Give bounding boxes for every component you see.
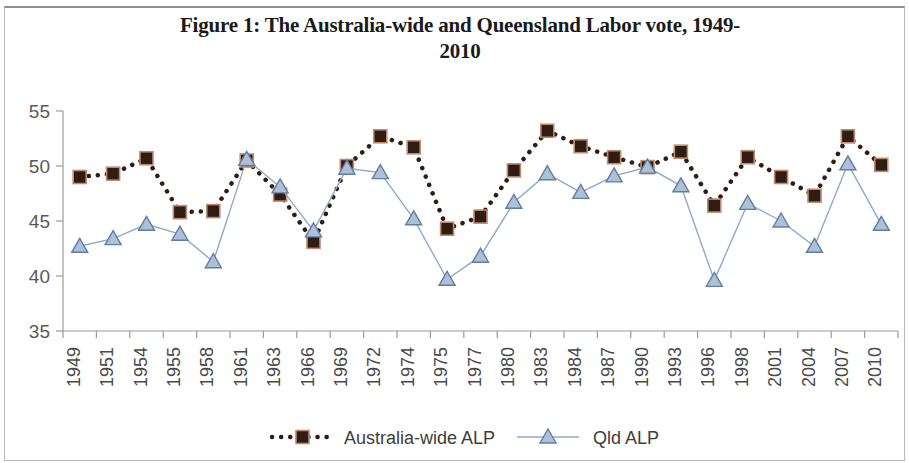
data-point-marker xyxy=(207,205,220,218)
x-axis-tick-label: 1990 xyxy=(632,347,652,387)
data-point-marker xyxy=(73,171,86,184)
data-point-marker xyxy=(873,216,889,230)
data-point-marker xyxy=(574,140,587,153)
chart-legend: Australia-wide ALPQld ALP xyxy=(272,428,659,448)
data-point-marker xyxy=(140,152,153,165)
data-point-marker xyxy=(441,222,454,235)
legend-label-australia-wide-alp: Australia-wide ALP xyxy=(344,428,495,448)
data-point-marker xyxy=(708,199,721,212)
x-axis-tick-label: 1984 xyxy=(565,347,585,387)
x-axis-tick-label: 1983 xyxy=(531,347,551,387)
x-axis-tick-label: 1975 xyxy=(431,347,451,387)
x-axis-tick-label: 2007 xyxy=(832,347,852,387)
x-axis-tick-label: 1951 xyxy=(97,347,117,387)
x-axis-tick-label: 2001 xyxy=(765,347,785,387)
legend-square-marker-icon xyxy=(296,431,309,444)
data-point-marker xyxy=(773,213,789,227)
x-axis-tick-label: 1987 xyxy=(598,347,618,387)
x-axis-tick-label: 1972 xyxy=(364,347,384,387)
x-axis-tick-label: 1949 xyxy=(64,347,84,387)
data-point-marker xyxy=(674,145,687,158)
x-axis-tick-label: 1958 xyxy=(197,347,217,387)
x-axis-tick-label: 1969 xyxy=(331,347,351,387)
x-axis-tick-label: 1966 xyxy=(298,347,318,387)
data-point-marker xyxy=(706,272,722,286)
data-point-marker xyxy=(407,141,420,154)
data-point-marker xyxy=(272,179,288,193)
y-axis-tick-label: 50 xyxy=(29,156,50,177)
y-axis-tick-label: 45 xyxy=(29,211,50,232)
data-point-marker xyxy=(741,151,754,164)
data-point-marker xyxy=(539,166,555,180)
data-point-marker xyxy=(807,238,823,252)
x-axis-tick-label: 1996 xyxy=(698,347,718,387)
data-point-marker xyxy=(205,254,221,268)
data-point-marker xyxy=(573,184,589,198)
y-axis-tick-label: 55 xyxy=(29,101,50,122)
figure-page: Figure 1: The Australia-wide and Queensl… xyxy=(0,0,909,463)
data-point-marker xyxy=(875,158,888,171)
x-axis-tick-label: 1998 xyxy=(732,347,752,387)
x-axis-tick-label: 1980 xyxy=(498,347,518,387)
data-point-marker xyxy=(139,216,155,230)
data-point-marker xyxy=(740,195,756,209)
data-point-marker xyxy=(173,206,186,219)
data-point-marker xyxy=(374,130,387,143)
data-point-marker xyxy=(474,210,487,223)
data-point-marker xyxy=(541,124,554,137)
x-axis-tick-label: 1955 xyxy=(164,347,184,387)
data-point-marker xyxy=(808,189,821,202)
x-axis-tick-labels: 1949195119541955195819611963196619691972… xyxy=(63,331,898,387)
y-axis-tick-labels: 3540455055 xyxy=(29,101,63,342)
data-point-marker xyxy=(673,178,689,192)
data-point-marker xyxy=(841,130,854,143)
x-axis-tick-label: 1993 xyxy=(665,347,685,387)
line-chart-svg: 3540455055 19491951195419551958196119631… xyxy=(0,0,909,463)
data-point-marker xyxy=(840,156,856,170)
x-axis-tick-label: 1954 xyxy=(131,347,151,387)
x-axis-tick-label: 1963 xyxy=(264,347,284,387)
data-point-marker xyxy=(105,231,121,245)
data-point-marker xyxy=(507,164,520,177)
data-point-marker xyxy=(506,194,522,208)
chart-plot-area: 3540455055 19491951195419551958196119631… xyxy=(0,0,909,463)
y-axis-tick-label: 35 xyxy=(29,321,50,342)
data-point-marker xyxy=(775,171,788,184)
x-axis-tick-label: 1961 xyxy=(231,347,251,387)
x-axis-tick-label: 1977 xyxy=(465,347,485,387)
x-axis-tick-label: 2004 xyxy=(799,347,819,387)
legend-label-qld-alp: Qld ALP xyxy=(593,428,659,448)
chart-series-layer xyxy=(72,124,890,286)
x-axis-tick-label: 2010 xyxy=(865,347,885,387)
data-point-marker xyxy=(473,248,489,262)
data-point-marker xyxy=(439,271,455,285)
data-point-marker xyxy=(608,151,621,164)
data-point-marker xyxy=(107,167,120,180)
y-axis-tick-label: 40 xyxy=(29,266,50,287)
data-point-marker xyxy=(406,211,422,225)
legend-triangle-marker-icon xyxy=(540,429,556,443)
series-1-group xyxy=(73,124,888,248)
x-axis-tick-label: 1974 xyxy=(398,347,418,387)
series-1-line xyxy=(80,131,882,242)
